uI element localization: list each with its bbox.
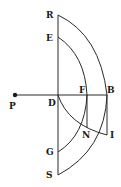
- label-B: B: [107, 85, 115, 95]
- label-R: R: [46, 10, 54, 20]
- label-G: G: [46, 147, 54, 157]
- label-E: E: [46, 33, 53, 43]
- geometry-diagram: R E P D F B N I G S: [0, 0, 121, 187]
- point-P: [13, 93, 17, 97]
- label-I: I: [110, 130, 114, 140]
- label-S: S: [46, 170, 53, 180]
- arc-DNI: [58, 95, 107, 135]
- label-N: N: [82, 130, 90, 140]
- label-P: P: [9, 101, 16, 111]
- label-D: D: [48, 98, 56, 108]
- label-F: F: [79, 85, 86, 95]
